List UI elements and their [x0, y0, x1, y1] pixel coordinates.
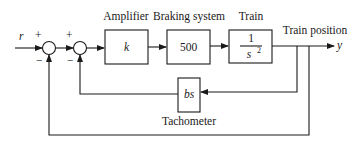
train-title: Train — [239, 10, 264, 22]
amplifier-title: Amplifier — [103, 10, 149, 23]
block-diagram: r + − + − Amplifier k Braking system 500… — [0, 0, 352, 142]
train-denominator-exponent: 2 — [257, 46, 261, 55]
output-caption: Train position — [283, 24, 348, 37]
sum1-plus-sign: + — [35, 29, 42, 41]
summing-junction-2 — [74, 42, 87, 55]
sum2-minus-sign: − — [67, 54, 74, 66]
train-numerator: 1 — [248, 32, 254, 44]
tachometer-title: Tachometer — [162, 115, 216, 127]
input-label-r: r — [19, 30, 24, 42]
output-label-y: y — [336, 39, 343, 52]
braking-system-gain: 500 — [180, 41, 198, 53]
train-denominator: s — [247, 48, 252, 60]
tachometer-gain: bs — [184, 88, 195, 100]
sum1-minus-sign: − — [36, 54, 43, 66]
amplifier-gain: k — [124, 41, 130, 53]
summing-junction-1 — [43, 42, 56, 55]
braking-system-title: Braking system — [153, 10, 225, 23]
sum2-plus-sign: + — [66, 29, 73, 41]
